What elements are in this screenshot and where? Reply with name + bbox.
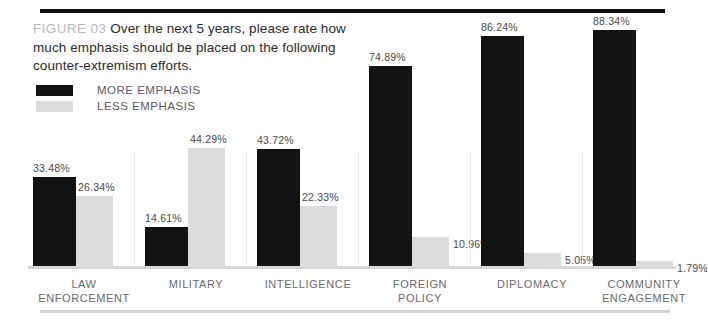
category-label-law-enforcement: LAWENFORCEMENT bbox=[28, 277, 140, 305]
category-label-line: ENGAGEMENT bbox=[602, 292, 686, 304]
bar-group-law-enforcement: 33.48%26.34%LAWENFORCEMENT bbox=[28, 0, 140, 323]
bar-value-label: 1.79% bbox=[677, 262, 708, 274]
bar-military-more-emphasis: 14.61% bbox=[145, 227, 188, 266]
bar-value-label: 74.89% bbox=[369, 51, 406, 63]
bar-intelligence-less-emphasis: 22.33% bbox=[300, 206, 337, 266]
bar-group-community-engagement: 88.34%1.79%COMMUNITYENGAGEMENT bbox=[588, 0, 700, 323]
bar-military-less-emphasis: 44.29% bbox=[188, 148, 225, 266]
category-label-line: COMMUNITY bbox=[607, 278, 680, 290]
bar-value-label: 26.34% bbox=[78, 181, 115, 193]
bar-value-label: 22.33% bbox=[302, 191, 339, 203]
group-divider bbox=[358, 150, 359, 266]
bar-group-diplomacy: 86.24%5.05%DIPLOMACY bbox=[476, 0, 588, 323]
category-label-intelligence: INTELLIGENCE bbox=[252, 277, 364, 291]
category-label-foreign-policy: FOREIGNPOLICY bbox=[364, 277, 476, 305]
bar-diplomacy-more-emphasis: 86.24% bbox=[481, 36, 524, 266]
category-label-line: DIPLOMACY bbox=[497, 278, 567, 290]
bar-community-engagement-more-emphasis: 88.34% bbox=[593, 30, 636, 266]
category-label-diplomacy: DIPLOMACY bbox=[476, 277, 588, 291]
category-label-military: MILITARY bbox=[140, 277, 252, 291]
group-divider bbox=[470, 150, 471, 266]
bar-group-foreign-policy: 74.89%10.96%FOREIGNPOLICY bbox=[364, 0, 476, 323]
category-label-line: ENFORCEMENT bbox=[38, 292, 130, 304]
bar-diplomacy-less-emphasis: 5.05% bbox=[524, 253, 561, 266]
bottom-rule bbox=[40, 310, 670, 313]
group-divider bbox=[582, 150, 583, 266]
bar-group-military: 14.61%44.29%MILITARY bbox=[140, 0, 252, 323]
bar-value-label: 44.29% bbox=[190, 133, 227, 145]
category-label-line: POLICY bbox=[398, 292, 442, 304]
bar-intelligence-more-emphasis: 43.72% bbox=[257, 149, 300, 266]
category-label-line: LAW bbox=[71, 278, 96, 290]
bar-value-label: 43.72% bbox=[257, 134, 294, 146]
category-label-line: MILITARY bbox=[169, 278, 224, 290]
bar-foreign-policy-more-emphasis: 74.89% bbox=[369, 66, 412, 266]
category-label-community-engagement: COMMUNITYENGAGEMENT bbox=[588, 277, 700, 305]
group-divider bbox=[134, 150, 135, 266]
category-label-line: FOREIGN bbox=[393, 278, 447, 290]
bar-value-label: 88.34% bbox=[593, 15, 630, 27]
bar-foreign-policy-less-emphasis: 10.96% bbox=[412, 237, 449, 266]
bar-value-label: 14.61% bbox=[145, 212, 182, 224]
bar-law-enforcement-less-emphasis: 26.34% bbox=[76, 196, 113, 266]
bar-group-intelligence: 43.72%22.33%INTELLIGENCE bbox=[252, 0, 364, 323]
category-label-line: INTELLIGENCE bbox=[265, 278, 352, 290]
group-divider bbox=[246, 150, 247, 266]
axis-baseline bbox=[28, 266, 676, 269]
bar-law-enforcement-more-emphasis: 33.48% bbox=[33, 177, 76, 266]
bar-value-label: 33.48% bbox=[33, 162, 70, 174]
bar-value-label: 86.24% bbox=[481, 21, 518, 33]
